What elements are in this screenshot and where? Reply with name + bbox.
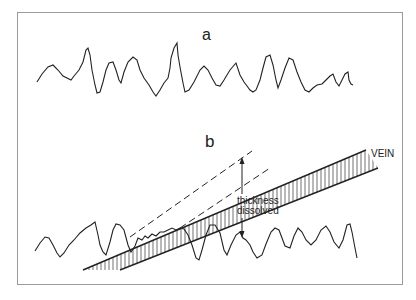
panel-label-a: a xyxy=(202,26,211,44)
panel-label-b: b xyxy=(205,132,214,152)
vein-hatch xyxy=(83,150,378,270)
thickness-label-line2: dissolved xyxy=(237,206,279,216)
vein-upper-boundary xyxy=(83,150,366,270)
vein-label: VEIN xyxy=(371,148,394,159)
vein-lower-boundary xyxy=(120,168,378,270)
profile-a xyxy=(37,43,353,96)
thickness-dissolved-label: thickness dissolved xyxy=(237,196,279,216)
